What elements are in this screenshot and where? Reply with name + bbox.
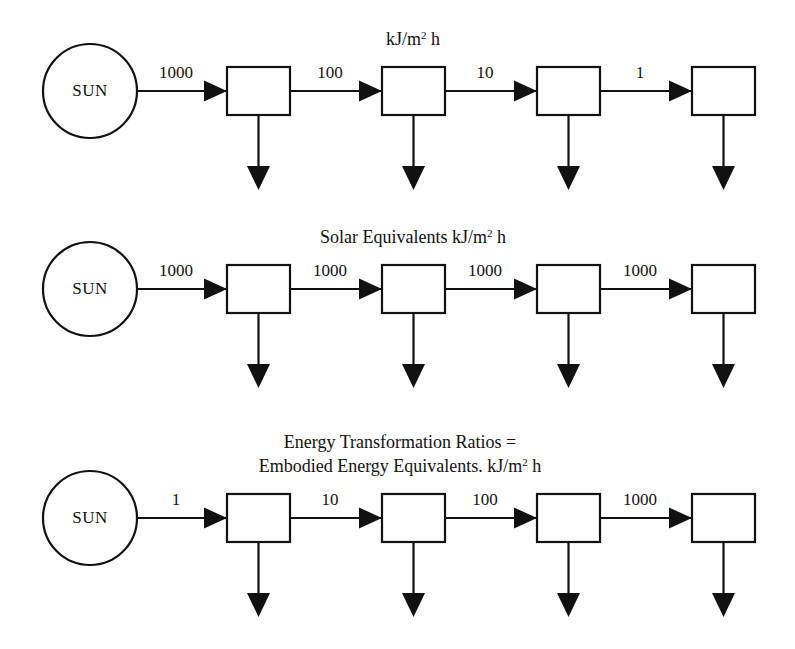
dispersed-energy-arrowhead (712, 593, 735, 617)
process-box (227, 265, 290, 313)
flow-arrowhead (204, 508, 227, 529)
dispersed-energy-arrowhead (557, 593, 580, 617)
flow-label: 1 (636, 63, 645, 82)
flow-label: 100 (317, 63, 343, 82)
process-box (227, 67, 290, 115)
flow-arrowhead (359, 81, 382, 102)
flow-arrowhead (669, 279, 692, 300)
flow-arrowhead (204, 279, 227, 300)
process-box (692, 265, 755, 313)
dispersed-energy-arrowhead (247, 593, 270, 617)
process-box (382, 265, 445, 313)
process-box (227, 494, 290, 542)
dispersed-energy-arrowhead (247, 166, 270, 190)
flow-label: 10 (477, 63, 494, 82)
flow-label: 1000 (623, 261, 657, 280)
flow-arrowhead (359, 279, 382, 300)
flow-arrowhead (514, 81, 537, 102)
flow-arrowhead (204, 81, 227, 102)
flow-label: 1000 (623, 490, 657, 509)
process-box (537, 67, 600, 115)
dispersed-energy-arrowhead (557, 166, 580, 190)
sun-node-label: SUN (72, 279, 108, 298)
row-caption: Energy Transformation Ratios =Embodied E… (259, 432, 542, 476)
row-solar-equivalents: Solar Equivalents kJ/m2 hSUN100010001000… (43, 227, 755, 388)
dispersed-energy-arrowhead (247, 364, 270, 388)
row-caption: Solar Equivalents kJ/m2 h (320, 227, 506, 247)
diagram-canvas: kJ/m2 hSUN1000100101Solar Equivalents kJ… (0, 0, 795, 649)
process-box (692, 67, 755, 115)
flow-label: 1000 (159, 63, 193, 82)
flow-arrowhead (514, 279, 537, 300)
dispersed-energy-arrowhead (712, 364, 735, 388)
flow-label: 1000 (468, 261, 502, 280)
flow-arrowhead (359, 508, 382, 529)
flow-label: 1000 (313, 261, 347, 280)
flow-label: 100 (472, 490, 498, 509)
process-box (382, 67, 445, 115)
flow-arrowhead (514, 508, 537, 529)
dispersed-energy-arrowhead (402, 593, 425, 617)
dispersed-energy-arrowhead (557, 364, 580, 388)
flow-label: 1 (172, 490, 181, 509)
flow-label: 10 (322, 490, 339, 509)
process-box (537, 494, 600, 542)
dispersed-energy-arrowhead (712, 166, 735, 190)
sun-node-label: SUN (72, 81, 108, 100)
process-box (382, 494, 445, 542)
dispersed-energy-arrowhead (402, 364, 425, 388)
energy-transformation-diagram: kJ/m2 hSUN1000100101Solar Equivalents kJ… (0, 0, 795, 649)
process-box (692, 494, 755, 542)
flow-arrowhead (669, 81, 692, 102)
sun-node-label: SUN (72, 508, 108, 527)
process-box (537, 265, 600, 313)
flow-arrowhead (669, 508, 692, 529)
row-energy-flow: kJ/m2 hSUN1000100101 (43, 29, 755, 190)
row-caption: kJ/m2 h (386, 29, 440, 49)
dispersed-energy-arrowhead (402, 166, 425, 190)
row-transformation-ratios: Energy Transformation Ratios =Embodied E… (43, 432, 755, 617)
flow-label: 1000 (159, 261, 193, 280)
